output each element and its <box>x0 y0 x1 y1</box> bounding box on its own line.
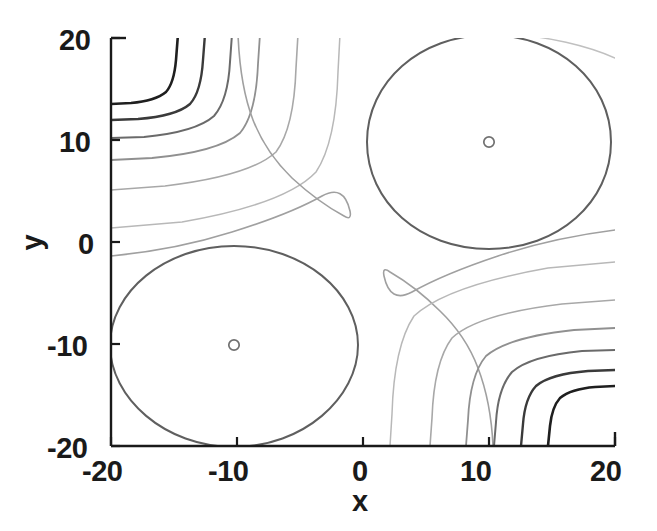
contour-level-7-lower-right <box>521 370 615 446</box>
center-marker-lower-left-icon <box>229 340 239 350</box>
contour-level-7-upper-left <box>111 34 205 120</box>
contour-level-6-upper-left <box>111 34 232 138</box>
contour-level-saddle-upper <box>111 34 350 256</box>
contour-level-5-upper-left <box>111 34 260 160</box>
contour-canvas <box>0 0 657 531</box>
contour-plot-figure: 20 10 0 -10 -20 -20 -10 0 10 20 x y <box>0 0 657 531</box>
y-tick-marks <box>111 38 120 446</box>
contour-level-3-upper-left <box>111 34 340 228</box>
contour-level-saddle-lower <box>384 230 615 446</box>
contour-level-4-upper-left <box>111 34 298 190</box>
contour-level-3-lower-right <box>390 262 615 446</box>
contour-level-closed-loop-upper-right <box>367 35 611 249</box>
contour-level-8-lower-right <box>548 386 615 446</box>
contour-level-closed-loop-lower-left <box>110 246 358 447</box>
contour-level-8-upper-left <box>111 34 178 104</box>
contour-level-6-lower-right <box>494 350 615 446</box>
center-marker-upper-right-icon <box>484 137 494 147</box>
